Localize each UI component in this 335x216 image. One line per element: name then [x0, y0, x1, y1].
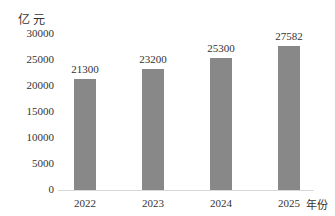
x-tick-2023: 2023 — [142, 197, 164, 209]
x-tick-2024: 2024 — [210, 197, 232, 209]
bar-2025 — [278, 46, 300, 190]
x-tick-2022: 2022 — [74, 197, 96, 209]
y-axis: 30000 25000 20000 15000 10000 5000 0 — [0, 0, 54, 216]
chart: 亿元 30000 25000 20000 15000 10000 5000 0 … — [0, 0, 335, 216]
y-tick-30000: 30000 — [27, 27, 55, 39]
data-label-2024: 25300 — [207, 42, 235, 54]
y-tick-15000: 15000 — [27, 105, 55, 117]
x-tick-2025: 2025 — [278, 197, 300, 209]
x-axis-line — [58, 190, 314, 191]
y-tick-5000: 5000 — [32, 157, 54, 169]
y-tick-0: 0 — [49, 183, 55, 195]
y-tick-25000: 25000 — [27, 53, 55, 65]
bar-2024 — [210, 58, 232, 190]
bar-2022 — [74, 79, 96, 190]
y-tick-20000: 20000 — [27, 79, 55, 91]
x-axis-unit-label: 年份 — [306, 196, 328, 212]
bar-2023 — [142, 69, 164, 190]
y-tick-10000: 10000 — [27, 131, 55, 143]
data-label-2025: 27582 — [275, 30, 303, 42]
data-label-2023: 23200 — [139, 53, 167, 65]
data-label-2022: 21300 — [71, 63, 99, 75]
